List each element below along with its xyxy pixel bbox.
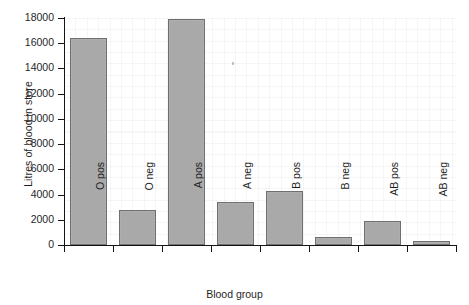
y-axis-line <box>64 17 65 246</box>
x-axis-tick-label: A pos <box>192 162 204 252</box>
x-axis-tick-label: O pos <box>94 162 106 252</box>
scan-speck <box>232 62 234 65</box>
x-axis-tick <box>64 246 65 252</box>
x-axis-tick <box>162 246 163 252</box>
y-axis-tick-label: 0 <box>0 239 54 250</box>
x-axis-tick-label: B pos <box>290 162 302 252</box>
x-axis-tick <box>407 246 408 252</box>
x-axis-tick-label: O neg <box>143 162 155 252</box>
y-axis-tick-label: 4000 <box>0 189 54 200</box>
x-axis-tick <box>113 246 114 252</box>
y-axis-tick-label: 8000 <box>0 138 54 149</box>
y-axis-tick-label: 12000 <box>0 88 54 99</box>
x-axis-tick <box>358 246 359 252</box>
x-axis-tick <box>260 246 261 252</box>
x-axis-tick-label: AB pos <box>388 162 400 252</box>
x-axis-tick <box>211 246 212 252</box>
x-axis-tick <box>456 246 457 252</box>
x-axis-tick <box>309 246 310 252</box>
x-axis-tick-label: B neg <box>339 162 351 252</box>
y-axis-tick-label: 6000 <box>0 163 54 174</box>
bar-chart: Litres of blood in store 020004000600080… <box>0 0 469 305</box>
y-axis-tick-label: 18000 <box>0 12 54 23</box>
x-axis-tick-label: AB neg <box>437 162 449 252</box>
x-axis-title: Blood group <box>0 288 469 300</box>
x-axis-tick-label: A neg <box>241 162 253 252</box>
y-axis-tick-label: 14000 <box>0 62 54 73</box>
y-axis-tick-label: 16000 <box>0 37 54 48</box>
y-axis-tick-label: 2000 <box>0 214 54 225</box>
y-axis-tick-label: 10000 <box>0 113 54 124</box>
